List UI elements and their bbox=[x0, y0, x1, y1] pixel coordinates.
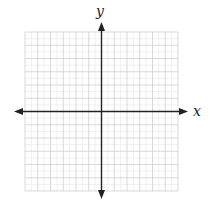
y-axis-label: y bbox=[95, 3, 105, 19]
y-axis-bottom-arrow-icon bbox=[98, 190, 105, 199]
x-axis-left-arrow-icon bbox=[14, 108, 23, 115]
x-axis-right-arrow-icon bbox=[179, 108, 188, 115]
y-axis-top-arrow-icon bbox=[98, 22, 105, 31]
coordinate-plane: y x bbox=[0, 0, 210, 205]
x-axis-label: x bbox=[193, 103, 201, 119]
